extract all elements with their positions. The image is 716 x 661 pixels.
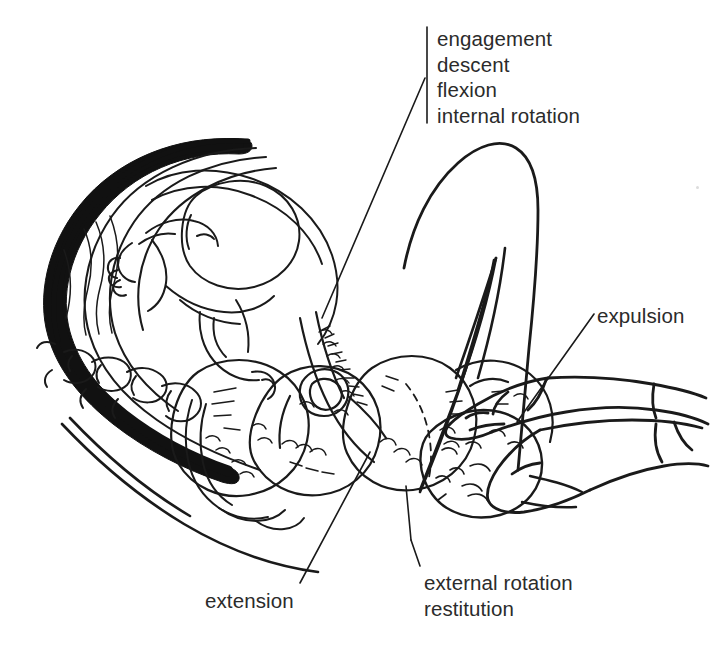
birth-illustration-figure: engagement descent flexion internal rota… (0, 0, 716, 661)
label-line-internal-rotation: internal rotation (437, 103, 580, 129)
external-rotation-leader-upper (406, 486, 411, 540)
external-rotation-label: external rotation restitution (424, 570, 573, 621)
label-line-extension: extension (205, 588, 294, 614)
label-line-restitution: restitution (424, 596, 573, 622)
first-stage-leader (322, 78, 425, 318)
label-line-flexion: flexion (437, 77, 580, 103)
fetus-in-utero (108, 170, 338, 399)
clinician-upper-hand (446, 377, 708, 439)
extension-label: extension (205, 588, 294, 614)
extension-leader (300, 452, 370, 583)
label-line-descent: descent (437, 52, 580, 78)
cardinal-movements-illustration (0, 0, 716, 661)
external-rotation-leader (411, 540, 420, 566)
label-line-engagement: engagement (437, 26, 580, 52)
scan-artifact-speck (696, 186, 699, 189)
cardinal-movements-label: engagement descent flexion internal rota… (437, 26, 580, 128)
label-line-external-rotation: external rotation (424, 570, 573, 596)
expulsion-label: expulsion (597, 303, 685, 329)
label-line-expulsion: expulsion (597, 303, 685, 329)
